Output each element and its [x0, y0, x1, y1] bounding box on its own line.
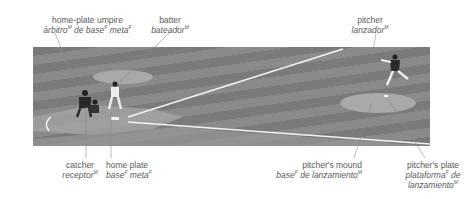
label-home-plate-umpire: home-plate umpire árbitroM de baseF meta…: [35, 15, 140, 35]
label-batter: batter bateadorM: [145, 15, 195, 35]
label-home-plate: home plate baseF metaF: [106, 160, 161, 180]
field-illustration: [33, 47, 430, 146]
baseball-field-photo: [33, 47, 430, 146]
label-pitchers-plate: pitcher's plate plataformaF de lanzamien…: [398, 160, 468, 190]
label-pitchers-mound: pitcher's mound baseF de lanzamientoM: [270, 160, 362, 180]
label-pitcher: pitcher lanzadorM: [345, 15, 395, 35]
label-catcher: catcher receptorM: [55, 160, 105, 180]
